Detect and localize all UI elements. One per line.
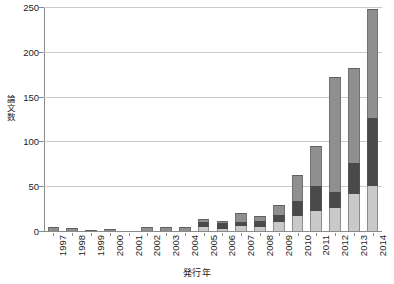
bar-2004: [179, 227, 191, 231]
y-tick-mark-200: [39, 52, 44, 53]
x-tick-label-1997: 1997: [57, 235, 68, 256]
x-tick-mark-2012: [335, 233, 336, 236]
bar-segment-2000-s3: [104, 229, 116, 231]
bar-segment-2012-s3: [329, 77, 341, 192]
x-tick-label-2003: 2003: [170, 235, 181, 256]
y-tick-label-150: 150: [3, 91, 39, 102]
x-axis-title: 発行年: [0, 266, 394, 279]
bar-segment-1999-s3: [85, 230, 97, 231]
x-tick-label-2010: 2010: [302, 235, 313, 256]
y-axis-tick-labels: 050100150200250: [0, 0, 39, 284]
x-tick-mark-1998: [72, 233, 73, 236]
x-tick-label-2005: 2005: [208, 235, 219, 256]
bar-2006: [217, 221, 229, 231]
bar-segment-2014-s3: [367, 9, 379, 118]
x-tick-mark-2003: [166, 233, 167, 236]
x-tick-label-2008: 2008: [264, 235, 275, 256]
bar-segment-2003-s3: [160, 227, 172, 231]
y-tick-label-100: 100: [3, 136, 39, 147]
x-tick-mark-2006: [222, 233, 223, 236]
bar-2011: [310, 146, 322, 231]
x-tick-mark-2000: [110, 233, 111, 236]
x-tick-label-2004: 2004: [189, 235, 200, 256]
y-tick-mark-50: [39, 186, 44, 187]
bar-segment-2011-s3: [310, 146, 322, 186]
x-tick-label-2000: 2000: [114, 235, 125, 256]
bar-segment-2012-s2: [329, 192, 341, 208]
bar-segment-2010-s1: [292, 216, 304, 231]
x-tick-mark-2009: [279, 233, 280, 236]
y-tick-label-0: 0: [3, 226, 39, 237]
y-tick-mark-150: [39, 97, 44, 98]
bar-segment-2007-s3: [235, 213, 247, 222]
x-tick-mark-1997: [53, 233, 54, 236]
x-tick-mark-2014: [373, 233, 374, 236]
bar-2010: [292, 175, 304, 231]
bar-segment-2009-s1: [273, 222, 285, 231]
bar-segment-2007-s1: [235, 226, 247, 231]
x-tick-label-2011: 2011: [320, 235, 331, 255]
x-tick-mark-2007: [241, 233, 242, 236]
bar-segment-2005-s1: [198, 227, 210, 231]
bar-segment-2011-s2: [310, 186, 322, 211]
x-tick-mark-2013: [354, 233, 355, 236]
bar-segment-2014-s2: [367, 118, 379, 186]
y-tick-mark-0: [39, 231, 44, 232]
bar-2003: [160, 227, 172, 231]
bar-segment-2013-s3: [348, 68, 360, 163]
bar-2012: [329, 77, 341, 231]
bar-2005: [198, 219, 210, 231]
bar-2002: [141, 227, 153, 231]
x-tick-label-2002: 2002: [151, 235, 162, 256]
bar-segment-2011-s1: [310, 211, 322, 231]
y-tick-mark-250: [39, 7, 44, 8]
bar-segment-2010-s3: [292, 175, 304, 201]
x-tick-mark-2002: [147, 233, 148, 236]
bar-segment-2013-s1: [348, 194, 360, 231]
bar-1998: [66, 228, 78, 231]
bar-segment-2013-s2: [348, 163, 360, 194]
bar-segment-2010-s2: [292, 201, 304, 216]
bar-segment-2008-s1: [254, 227, 266, 231]
bar-2014: [367, 9, 379, 231]
x-tick-mark-2005: [204, 233, 205, 236]
bar-2009: [273, 205, 285, 231]
x-tick-label-1999: 1999: [95, 235, 106, 256]
x-tick-label-2009: 2009: [283, 235, 294, 256]
x-tick-label-1998: 1998: [76, 235, 87, 256]
bar-1999: [85, 230, 97, 231]
bar-segment-2004-s3: [179, 227, 191, 231]
bar-segment-2014-s1: [367, 186, 379, 231]
bar-2013: [348, 68, 360, 231]
x-tick-mark-2001: [129, 233, 130, 236]
y-tick-label-50: 50: [3, 181, 39, 192]
bar-segment-1997-s3: [48, 227, 60, 231]
gridline-200: [44, 52, 382, 53]
bar-2000: [104, 229, 116, 231]
gridline-250: [44, 7, 382, 8]
x-tick-label-2006: 2006: [226, 235, 237, 256]
bar-segment-1998-s3: [66, 228, 78, 231]
x-axis-line: [44, 231, 382, 232]
y-tick-mark-100: [39, 141, 44, 142]
x-tick-label-2014: 2014: [377, 235, 388, 256]
x-tick-mark-1999: [91, 233, 92, 236]
y-tick-label-200: 200: [3, 46, 39, 57]
bar-segment-2002-s3: [141, 227, 153, 231]
bar-segment-2006-s1: [217, 229, 229, 231]
x-tick-label-2007: 2007: [245, 235, 256, 256]
x-tick-label-2001: 2001: [133, 235, 144, 256]
plot-area: [44, 7, 382, 231]
stacked-bar-chart: 論文数 050100150200250 19971998199920002001…: [0, 0, 394, 284]
x-tick-mark-2004: [185, 233, 186, 236]
bar-segment-2012-s1: [329, 208, 341, 231]
y-tick-label-250: 250: [3, 2, 39, 13]
bar-2007: [235, 213, 247, 231]
bar-segment-2009-s3: [273, 205, 285, 215]
x-tick-mark-2011: [316, 233, 317, 236]
bar-segment-2009-s2: [273, 215, 285, 222]
bar-1997: [48, 227, 60, 231]
bar-2008: [254, 216, 266, 231]
x-tick-mark-2008: [260, 233, 261, 236]
x-tick-label-2013: 2013: [358, 235, 369, 256]
